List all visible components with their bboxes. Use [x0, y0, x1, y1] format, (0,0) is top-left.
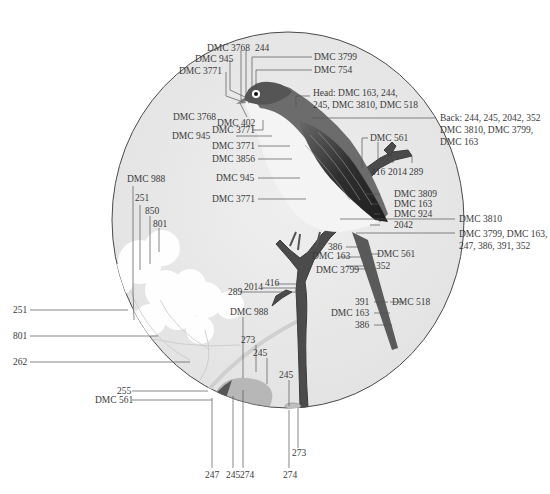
label-dmc924: DMC 924: [394, 209, 432, 220]
label-850: 850: [145, 206, 159, 217]
label-lower-289: 289: [228, 287, 242, 298]
label-dmc3771-b: DMC 3771: [212, 141, 255, 152]
label-251-left: 251: [13, 305, 27, 316]
label-dmc945-a: DMC 945: [172, 131, 210, 142]
label-head-1: Head: DMC 163, 244,: [313, 88, 398, 99]
label-dmc3799-tail: DMC 3799: [316, 265, 359, 276]
label-274-bottom-b: 274: [283, 470, 297, 481]
label-273-leaf: 273: [241, 335, 255, 346]
label-lower-2014: 2014: [244, 282, 263, 293]
label-2042: 2042: [394, 220, 413, 231]
label-801-left: 801: [13, 331, 27, 342]
label-dmc988-flower: DMC 988: [127, 174, 165, 185]
label-dmc988-leaf: DMC 988: [230, 307, 268, 318]
label-391: 391: [355, 297, 369, 308]
label-dmc3856: DMC 3856: [212, 154, 255, 165]
label-245-leaf: 245: [253, 348, 267, 359]
label-back-1: Back: 244, 245, 2042, 352: [440, 113, 541, 124]
label-dmc561-leaf: DMC 561: [95, 395, 133, 406]
label-dmc163-b: DMC 163: [331, 308, 369, 319]
label-dmc3768-top: DMC 3768: [207, 43, 250, 54]
label-dmc518: DMC 518: [392, 297, 430, 308]
label-back-2: DMC 3810, DMC 3799,: [440, 125, 533, 136]
label-274-bottom-a: 274: [240, 470, 254, 481]
label-tail-1: DMC 3799, DMC 163,: [459, 229, 547, 240]
label-801-flower: 801: [153, 219, 167, 230]
label-244-top: 244: [255, 43, 269, 54]
label-dmc561-tail: DMC 561: [377, 249, 415, 260]
label-245-twig: 245: [279, 370, 293, 381]
label-dmc3768: DMC 3768: [173, 112, 216, 123]
label-dmc3771-a: DMC 3771: [212, 125, 255, 136]
label-352: 352: [376, 261, 390, 272]
label-dmc163-a: DMC 163: [312, 251, 350, 262]
label-dmc945-b: DMC 945: [216, 173, 254, 184]
label-dmc3771-c: DMC 3771: [212, 194, 255, 205]
label-247-bottom: 247: [205, 470, 219, 481]
label-dmc754: DMC 754: [314, 65, 352, 76]
label-262-left: 262: [13, 357, 27, 368]
label-416: 416: [371, 167, 385, 178]
label-dmc561-top: DMC 561: [370, 133, 408, 144]
label-lower-416: 416: [265, 278, 279, 289]
embroidery-diagram: DMC 3768 244 DMC 945 DMC 3771 DMC 3799 D…: [0, 0, 550, 494]
label-386-b: 386: [355, 320, 369, 331]
label-back-3: DMC 163: [440, 137, 478, 148]
label-dmc3810: DMC 3810: [459, 214, 502, 225]
label-289: 289: [409, 167, 423, 178]
label-tail-2: 247, 386, 391, 352: [459, 241, 530, 252]
label-2014: 2014: [388, 167, 407, 178]
label-273-twig: 273: [292, 448, 306, 459]
label-head-2: 245, DMC 3810, DMC 518: [313, 100, 418, 111]
label-251-flower: 251: [135, 193, 149, 204]
label-dmc3771-top: DMC 3771: [179, 66, 222, 77]
label-245-bottom: 245: [226, 470, 240, 481]
label-dmc3799-top: DMC 3799: [314, 52, 357, 63]
label-dmc945-top: DMC 945: [195, 54, 233, 65]
